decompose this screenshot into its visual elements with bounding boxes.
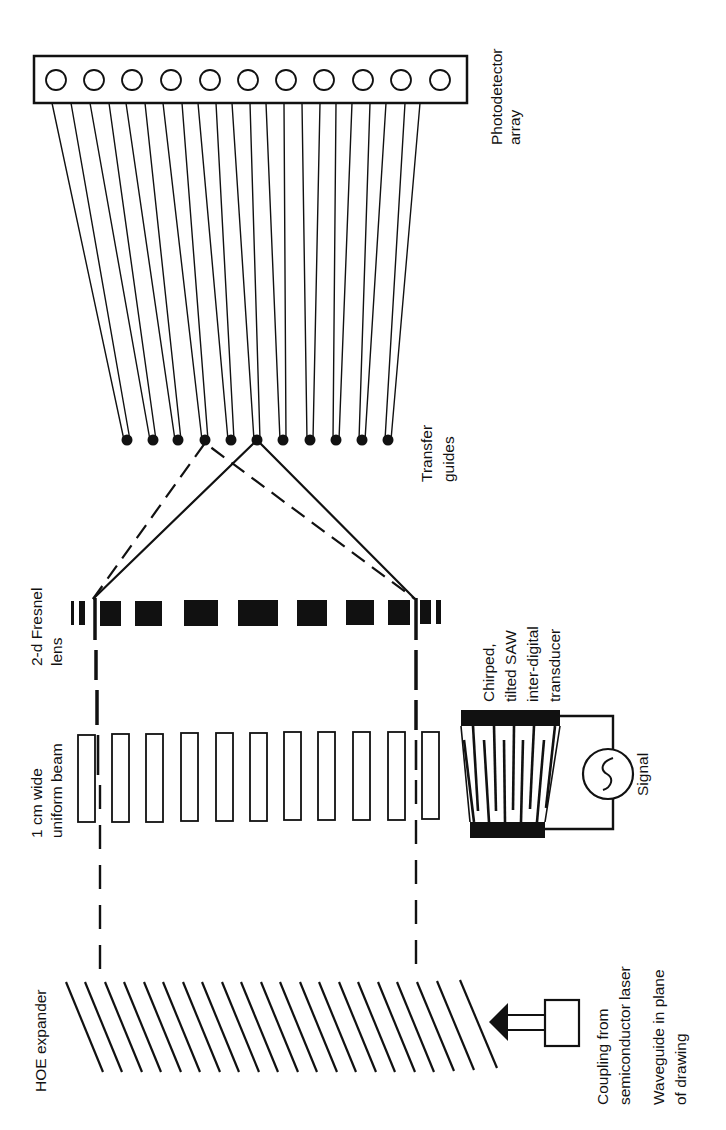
collimated-beam-outline (100, 780, 416, 978)
svg-text:Coupling from: Coupling from (594, 1009, 611, 1106)
label-photodetector-array: Photodetector array (488, 48, 523, 145)
svg-text:Transfer: Transfer (418, 425, 435, 482)
svg-text:Waveguide in plane: Waveguide in plane (650, 969, 667, 1105)
label-transfer-guides: Transfer guides (418, 425, 457, 482)
laser-coupler (489, 1000, 579, 1046)
svg-text:2-d Fresnel: 2-d Fresnel (28, 588, 45, 666)
label-coupling: Coupling from semiconductor laser (594, 966, 633, 1105)
saw-transducer (461, 710, 560, 838)
svg-text:1 cm wide: 1 cm wide (28, 768, 45, 838)
svg-text:Signal: Signal (634, 753, 651, 796)
photodetector-elements (46, 70, 450, 90)
photodetector-array (8, 56, 467, 103)
svg-text:transducer: transducer (546, 629, 563, 702)
fresnel-lens (71, 600, 441, 626)
svg-text:Photodetector: Photodetector (488, 48, 505, 145)
sine-wave-icon (603, 758, 613, 790)
svg-text:inter-digital: inter-digital (524, 626, 541, 702)
hoe-expander (66, 980, 497, 1072)
label-uniform-beam: 1 cm wide uniform beam (28, 743, 65, 838)
arrow-left-icon (489, 1003, 508, 1041)
svg-text:of drawing: of drawing (672, 1033, 689, 1105)
saw-spectrum-analyzer-diagram: Photodetector array Transfer guides 2-d … (0, 0, 726, 1130)
svg-text:guides: guides (440, 436, 457, 482)
label-signal: Signal (634, 753, 651, 796)
label-transducer: Chirped, tilted SAW inter-digital transd… (480, 626, 563, 702)
svg-text:Chirped,: Chirped, (480, 643, 497, 702)
label-waveguide: Waveguide in plane of drawing (650, 969, 689, 1105)
label-hoe-expander: HOE expander (32, 989, 49, 1092)
label-fresnel-lens: 2-d Fresnel lens (28, 588, 65, 666)
svg-text:semiconductor laser: semiconductor laser (616, 966, 633, 1105)
focused-beam-solid (93, 440, 415, 599)
svg-text:lens: lens (48, 637, 65, 666)
svg-text:uniform beam: uniform beam (48, 743, 65, 838)
svg-text:array: array (506, 109, 523, 145)
uniform-beam-segments (78, 732, 439, 822)
svg-text:HOE expander: HOE expander (32, 989, 49, 1092)
transfer-guides (52, 103, 420, 440)
focused-beam-dashed (93, 443, 415, 599)
svg-text:tilted SAW: tilted SAW (502, 630, 519, 702)
